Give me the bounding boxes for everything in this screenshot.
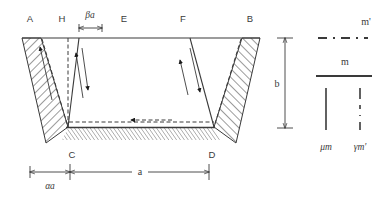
label-a: a — [138, 166, 143, 177]
label-F: F — [180, 13, 186, 24]
label-C: C — [69, 149, 76, 160]
ground-hatching — [62, 128, 220, 141]
dimension-alpha-a: αa — [30, 164, 70, 191]
legend: m' m μm γm' — [316, 16, 372, 152]
label-b: b — [275, 78, 280, 89]
label-H: H — [59, 13, 66, 24]
legend-item-m-prime: m' — [318, 16, 371, 38]
label-A: A — [27, 13, 34, 24]
label-beta-a: βa — [84, 10, 95, 20]
label-alpha-a: αa — [45, 181, 55, 191]
legend-label-m-prime: m' — [361, 16, 371, 27]
arrow-left-inner-up — [76, 53, 83, 98]
right-wall — [214, 38, 260, 143]
legend-item-m: m — [316, 56, 372, 76]
arrow-right-inner-up — [180, 60, 188, 95]
legend-label-gamma-m-prime: γm' — [354, 142, 368, 152]
arrow-left-inner-down — [82, 48, 88, 90]
label-B: B — [247, 13, 253, 24]
left-wall — [22, 38, 68, 143]
legend-label-mu-m: μm — [319, 142, 332, 152]
slip-line-left-inner — [68, 38, 79, 127]
label-D: D — [209, 149, 216, 160]
label-E: E — [121, 13, 127, 24]
trapezoid-section — [22, 38, 260, 143]
legend-label-m: m — [341, 56, 349, 67]
legend-item-mu-m: μm — [319, 88, 332, 152]
legend-item-gamma-m-prime: γm' — [354, 88, 368, 152]
dimension-b: b — [275, 38, 294, 128]
engineering-diagram: A H E F B C D βa b αa a m' — [0, 0, 382, 199]
dimension-beta-a: βa — [79, 10, 102, 32]
dimension-a: a — [70, 164, 209, 180]
slip-line-right-inner — [190, 38, 214, 127]
